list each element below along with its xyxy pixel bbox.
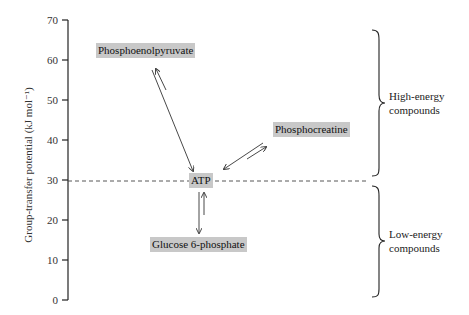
low-energy-brace xyxy=(372,186,385,297)
label-phosphoenolpyruvate: Phosphoenolpyruvate xyxy=(96,43,195,58)
tick-40: 40 xyxy=(47,134,59,146)
label-glucose-6-phosphate: Glucose 6-phosphate xyxy=(150,237,247,252)
arrow-atp-to-pcr xyxy=(247,147,266,159)
tick-20: 20 xyxy=(47,214,59,226)
tick-60: 60 xyxy=(47,54,59,66)
y-axis-title: Group-transfer potential (kJ mol⁻¹) xyxy=(22,87,35,243)
label-atp: ATP xyxy=(189,173,213,188)
label-phosphocreatine: Phosphocreatine xyxy=(273,122,350,137)
tick-10: 10 xyxy=(47,254,59,266)
tick-70: 70 xyxy=(47,14,59,26)
low-energy-line2: compounds xyxy=(389,241,443,255)
tick-50: 50 xyxy=(47,94,59,106)
tick-0: 0 xyxy=(53,294,59,306)
tick-30: 30 xyxy=(47,174,59,186)
arrow-atp-to-pep xyxy=(156,69,166,90)
high-energy-label: High-energy compounds xyxy=(389,89,444,117)
arrow-pep-to-atp xyxy=(152,70,193,171)
y-axis-ticks xyxy=(62,20,68,300)
high-energy-line1: High-energy xyxy=(389,89,444,103)
arrow-pcr-to-atp xyxy=(224,143,263,169)
low-energy-line1: Low-energy xyxy=(389,227,443,241)
group-transfer-diagram: 0 10 20 30 40 50 60 70 Group-transfer po… xyxy=(0,0,469,315)
low-energy-label: Low-energy compounds xyxy=(389,227,443,255)
high-energy-brace xyxy=(372,30,385,176)
high-energy-line2: compounds xyxy=(389,103,444,117)
y-axis-tick-labels: 0 10 20 30 40 50 60 70 xyxy=(47,14,59,306)
